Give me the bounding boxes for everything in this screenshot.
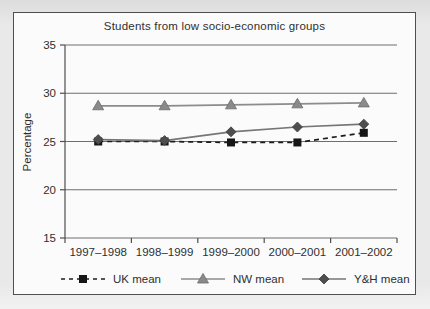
svg-text:15: 15	[43, 232, 56, 244]
svg-text:1999–2000: 1999–2000	[202, 246, 260, 258]
yh-mean-legend-marker-icon	[301, 272, 347, 286]
svg-text:35: 35	[43, 39, 56, 51]
legend-label-uk-mean: UK mean	[113, 273, 161, 285]
legend: UK mean NW mean Y&H mean	[14, 271, 415, 289]
y-axis-label: Percentage	[18, 45, 36, 238]
svg-text:30: 30	[43, 87, 56, 99]
uk-mean-legend-marker-icon	[60, 272, 106, 286]
svg-text:20: 20	[43, 184, 56, 196]
legend-label-nw-mean: NW mean	[233, 273, 284, 285]
svg-text:1997–1998: 1997–1998	[69, 246, 127, 258]
legend-item-uk-mean: UK mean	[60, 271, 161, 287]
legend-item-nw-mean: NW mean	[180, 271, 284, 287]
svg-text:2000–2001: 2000–2001	[269, 246, 327, 258]
plot-area: 15202530351997–19981998–19991999–2000200…	[14, 13, 417, 296]
chart-frame: Students from low socio-economic groups …	[13, 12, 416, 295]
svg-text:25: 25	[43, 136, 56, 148]
svg-text:2001–2002: 2001–2002	[335, 246, 393, 258]
legend-label-yh-mean: Y&H mean	[354, 273, 410, 285]
scanned-page-background: Students from low socio-economic groups …	[0, 0, 430, 309]
nw-mean-legend-marker-icon	[180, 272, 226, 286]
svg-text:1998–1999: 1998–1999	[136, 246, 194, 258]
legend-item-yh-mean: Y&H mean	[301, 271, 410, 287]
